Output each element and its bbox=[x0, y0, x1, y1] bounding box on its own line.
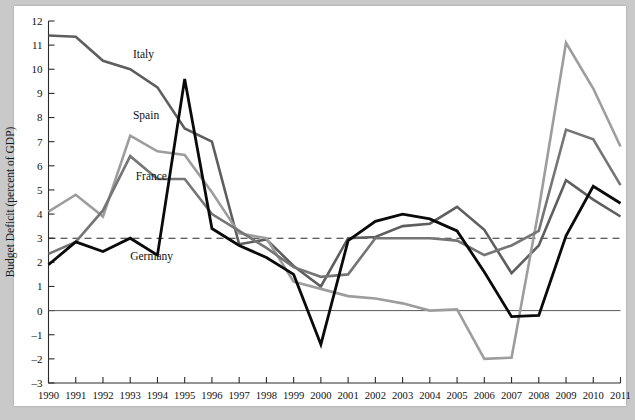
y-tick-label: 10 bbox=[32, 63, 44, 75]
x-tick-label: 1998 bbox=[256, 390, 277, 401]
x-tick-label: 2008 bbox=[528, 390, 549, 401]
chart-figure: Budget Deficit (percent of GDP) 12111098… bbox=[0, 0, 635, 420]
y-axis-title-group: Budget Deficit (percent of GDP) bbox=[4, 126, 17, 277]
series-label-france: France bbox=[136, 170, 167, 182]
series-label-spain: Spain bbox=[133, 109, 159, 122]
chart-page: Budget Deficit (percent of GDP) 12111098… bbox=[0, 0, 635, 420]
series-line-spain bbox=[49, 43, 621, 359]
y-tick-label: 0 bbox=[37, 305, 43, 317]
x-tick-label: 1991 bbox=[65, 390, 86, 401]
x-tick-label: 2001 bbox=[338, 390, 359, 401]
x-tick-label: 1994 bbox=[147, 390, 169, 401]
y-tick-label: 1 bbox=[37, 280, 43, 292]
x-tick-label: 2009 bbox=[555, 390, 576, 401]
y-tick-label: 11 bbox=[32, 39, 43, 51]
y-tick-label: 4 bbox=[37, 208, 43, 220]
x-tick-label: 1996 bbox=[201, 390, 222, 401]
x-tick-label: 1993 bbox=[120, 390, 141, 401]
x-tick-label: 2003 bbox=[392, 390, 413, 401]
x-tick-label: 2006 bbox=[474, 390, 495, 401]
y-tick-label: 12 bbox=[32, 15, 43, 27]
y-tick-label: 7 bbox=[37, 136, 43, 148]
y-tick-label: –3 bbox=[31, 377, 44, 389]
x-tick-label: 1990 bbox=[38, 390, 59, 401]
x-tick-label: 2002 bbox=[365, 390, 386, 401]
x-tick-label: 1992 bbox=[92, 390, 113, 401]
x-tick-label: 2011 bbox=[610, 390, 631, 401]
y-tick-label: 3 bbox=[37, 232, 43, 244]
y-tick-label: 2 bbox=[37, 256, 43, 268]
series-label-germany: Germany bbox=[130, 250, 173, 263]
y-axis-ticks: 1211109876543210–1–2–3 bbox=[31, 15, 55, 389]
line-chart: Budget Deficit (percent of GDP) 12111098… bbox=[0, 0, 635, 420]
x-tick-label: 2000 bbox=[310, 390, 331, 401]
y-tick-label: 5 bbox=[37, 184, 43, 196]
x-tick-label: 2005 bbox=[446, 390, 467, 401]
x-tick-label: 2007 bbox=[501, 390, 522, 401]
x-axis-ticks: 1990199119921993199419951996199719981999… bbox=[38, 377, 631, 401]
series-label-italy: Italy bbox=[133, 48, 154, 61]
y-tick-label: –1 bbox=[31, 329, 43, 341]
y-axis-title: Budget Deficit (percent of GDP) bbox=[4, 126, 17, 277]
series-inline-labels: ItalySpainFranceGermany bbox=[130, 48, 173, 263]
x-tick-label: 2004 bbox=[419, 390, 441, 401]
x-tick-label: 1995 bbox=[174, 390, 195, 401]
y-tick-label: 8 bbox=[37, 111, 43, 123]
x-tick-label: 1997 bbox=[229, 390, 250, 401]
y-tick-label: –2 bbox=[31, 353, 43, 365]
axis-spines bbox=[49, 21, 621, 383]
x-tick-label: 2010 bbox=[583, 390, 604, 401]
y-tick-label: 6 bbox=[37, 160, 43, 172]
axis-lines bbox=[49, 21, 621, 383]
x-tick-label: 1999 bbox=[283, 390, 304, 401]
y-tick-label: 9 bbox=[37, 87, 43, 99]
